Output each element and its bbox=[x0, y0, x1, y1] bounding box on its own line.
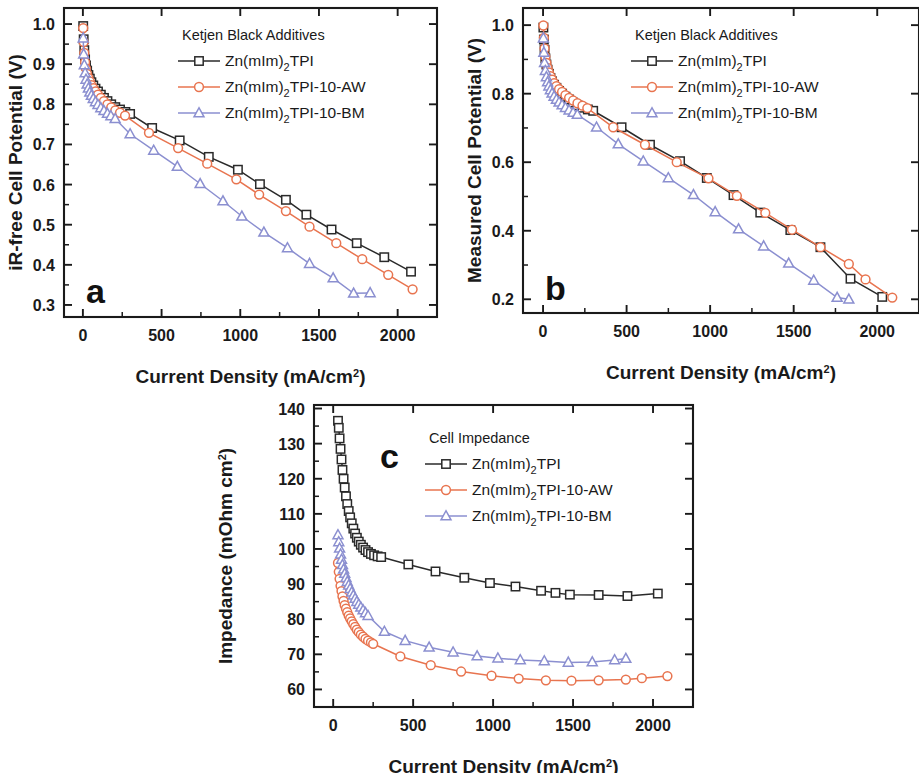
legend-label: Zn(mIm)2TPI-10-AW bbox=[225, 78, 366, 99]
data-marker bbox=[203, 159, 212, 168]
legend-label: Zn(mIm)2TPI-10-AW bbox=[678, 78, 819, 99]
data-marker bbox=[734, 224, 744, 233]
data-series-3 bbox=[538, 33, 853, 303]
legend: Ketjen Black AdditivesZn(mIm)2TPIZn(mIm)… bbox=[178, 27, 366, 125]
y-tick-label: 0.9 bbox=[33, 56, 55, 73]
data-marker bbox=[380, 253, 388, 261]
y-tick-label: 70 bbox=[287, 646, 305, 663]
legend-item-3[interactable]: Zn(mIm)2TPI-10-BM bbox=[178, 104, 365, 125]
data-marker bbox=[255, 190, 264, 199]
x-tick-label: 2000 bbox=[859, 323, 895, 340]
legend-title: Cell Impedance bbox=[429, 430, 530, 446]
y-tick-label: 0.6 bbox=[492, 154, 514, 171]
y-tick-label: 110 bbox=[279, 506, 305, 523]
x-tick-label: 1500 bbox=[301, 327, 337, 344]
data-marker bbox=[672, 158, 681, 167]
data-marker bbox=[121, 111, 130, 120]
data-marker bbox=[511, 582, 519, 590]
y-tick-label: 0.3 bbox=[33, 297, 55, 314]
data-marker bbox=[384, 270, 393, 279]
x-tick-label: 1500 bbox=[555, 717, 591, 734]
data-marker bbox=[609, 123, 618, 132]
panel-label: b bbox=[545, 269, 566, 307]
x-tick-label: 500 bbox=[148, 327, 175, 344]
legend-marker bbox=[442, 486, 451, 495]
legend-title: Ketjen Black Additives bbox=[635, 27, 778, 43]
y-tick-label: 90 bbox=[287, 576, 305, 593]
x-axis-title: Current Density (mA/cm2) bbox=[136, 366, 366, 387]
data-marker bbox=[218, 196, 228, 205]
data-series-2 bbox=[334, 559, 672, 685]
y-tick-label: 80 bbox=[287, 611, 305, 628]
data-marker bbox=[377, 553, 385, 561]
legend-item-3[interactable]: Zn(mIm)2TPI-10-BM bbox=[631, 104, 818, 125]
data-marker bbox=[302, 210, 310, 218]
data-marker bbox=[710, 207, 720, 216]
panel-a: 05001000150020000.30.40.50.60.70.80.91.0… bbox=[0, 0, 460, 390]
legend: Ketjen Black AdditivesZn(mIm)2TPIZn(mIm)… bbox=[631, 27, 819, 125]
data-marker bbox=[583, 104, 592, 113]
data-line bbox=[83, 38, 370, 293]
data-marker bbox=[336, 445, 344, 453]
data-marker bbox=[613, 139, 623, 148]
data-marker bbox=[594, 676, 603, 685]
data-marker bbox=[353, 239, 361, 247]
data-marker bbox=[79, 24, 88, 33]
legend-item-1[interactable]: Zn(mIm)2TPI bbox=[178, 52, 314, 73]
legend-item-3[interactable]: Zn(mIm)2TPI-10-BM bbox=[425, 507, 612, 528]
x-tick-label: 2000 bbox=[635, 717, 671, 734]
legend: Cell ImpedanceZn(mIm)2TPIZn(mIm)2TPI-10-… bbox=[425, 430, 613, 528]
x-tick-label: 1000 bbox=[475, 717, 511, 734]
data-marker bbox=[594, 591, 602, 599]
data-marker bbox=[832, 292, 842, 301]
data-marker bbox=[259, 227, 269, 236]
legend-label: Zn(mIm)2TPI-10-BM bbox=[678, 104, 818, 125]
legend-item-2[interactable]: Zn(mIm)2TPI-10-AW bbox=[631, 78, 819, 99]
x-tick-label: 500 bbox=[613, 323, 640, 340]
y-tick-label: 1.0 bbox=[33, 16, 55, 33]
data-marker bbox=[335, 424, 343, 432]
legend-marker bbox=[648, 57, 656, 65]
data-marker bbox=[487, 671, 496, 680]
legend-item-2[interactable]: Zn(mIm)2TPI-10-AW bbox=[425, 481, 613, 502]
data-marker bbox=[149, 145, 159, 154]
legend-label: Zn(mIm)2TPI bbox=[472, 455, 561, 476]
data-marker bbox=[551, 589, 559, 597]
data-marker bbox=[404, 560, 412, 568]
data-marker bbox=[761, 209, 770, 218]
data-marker bbox=[688, 190, 698, 199]
data-marker bbox=[396, 652, 405, 661]
data-marker bbox=[327, 225, 335, 233]
data-marker bbox=[408, 285, 417, 294]
data-marker bbox=[784, 258, 794, 267]
data-marker bbox=[328, 273, 338, 282]
x-tick-label: 0 bbox=[78, 327, 87, 344]
legend-item-1[interactable]: Zn(mIm)2TPI bbox=[425, 455, 561, 476]
data-marker bbox=[369, 639, 378, 648]
y-axis-title: Impedance (mOhm cm2) bbox=[215, 448, 236, 664]
data-marker bbox=[305, 222, 314, 231]
data-marker bbox=[541, 676, 550, 685]
panel-b: 05001000150020000.20.40.60.81.0Current D… bbox=[459, 0, 919, 390]
data-marker bbox=[623, 592, 631, 600]
y-tick-label: 140 bbox=[278, 401, 305, 418]
data-marker bbox=[641, 140, 650, 149]
legend-marker bbox=[442, 460, 450, 468]
data-marker bbox=[514, 674, 523, 683]
data-marker bbox=[663, 672, 672, 681]
data-marker bbox=[256, 180, 264, 188]
data-marker bbox=[846, 275, 854, 283]
legend-label: Zn(mIm)2TPI-10-AW bbox=[472, 481, 613, 502]
legend-item-1[interactable]: Zn(mIm)2TPI bbox=[631, 52, 767, 73]
legend-marker bbox=[195, 83, 204, 92]
legend-item-2[interactable]: Zn(mIm)2TPI-10-AW bbox=[178, 78, 366, 99]
x-tick-label: 1000 bbox=[222, 327, 258, 344]
data-marker bbox=[407, 267, 415, 275]
data-marker bbox=[537, 587, 545, 595]
data-marker bbox=[337, 455, 345, 463]
data-marker bbox=[486, 579, 494, 587]
data-marker bbox=[888, 293, 897, 302]
data-marker bbox=[195, 179, 205, 188]
data-marker bbox=[539, 21, 548, 30]
x-tick-label: 500 bbox=[400, 717, 427, 734]
